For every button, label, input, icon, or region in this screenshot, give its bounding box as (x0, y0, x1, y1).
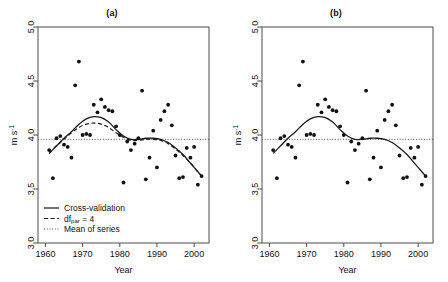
data-point (192, 145, 196, 149)
data-point (196, 183, 200, 187)
data-point (271, 148, 275, 152)
y-axis-label: m s-1 (231, 124, 243, 145)
data-point (84, 132, 88, 136)
data-point (372, 156, 376, 160)
cross-validation-curve (273, 117, 425, 176)
data-point (110, 109, 114, 113)
data-point (405, 175, 409, 179)
x-axis-tick-label: 1990 (147, 249, 167, 259)
data-point (92, 103, 96, 107)
data-point (77, 60, 81, 64)
data-point (275, 176, 279, 180)
plot-area: 3.03.54.04.55.019601970198019902000Yearm… (224, 0, 448, 282)
svg-text:m s-1: m s-1 (231, 124, 243, 145)
cross-validation-curve (49, 117, 201, 176)
data-point (413, 156, 417, 160)
data-point (305, 133, 309, 137)
x-axis-tick-label: 1960 (35, 249, 55, 259)
data-point (390, 103, 394, 107)
data-point (88, 133, 92, 137)
data-point (342, 133, 346, 137)
data-point (114, 124, 118, 128)
data-point (331, 108, 335, 112)
legend: Cross-validationdfpar = 4Mean of series (44, 203, 125, 234)
x-axis-tick-label: 1990 (371, 249, 391, 259)
x-axis-tick-label: 1980 (334, 249, 354, 259)
data-point (122, 181, 126, 185)
data-point (416, 145, 420, 149)
y-axis-tick-label: 3.0 (26, 237, 36, 250)
data-point (177, 176, 181, 180)
data-point (327, 105, 331, 109)
data-point (297, 83, 301, 87)
data-point (301, 60, 305, 64)
data-point (386, 109, 390, 113)
x-axis-label: Year (338, 265, 356, 275)
data-point (66, 145, 70, 149)
data-point (55, 136, 59, 140)
data-point (312, 133, 316, 137)
data-point (107, 108, 111, 112)
data-point (129, 148, 133, 152)
data-point (364, 89, 368, 93)
data-point (162, 109, 166, 113)
data-point (96, 110, 100, 114)
data-point (401, 176, 405, 180)
data-point (155, 166, 159, 170)
data-point (144, 177, 148, 181)
legend-label: Cross-validation (64, 203, 125, 213)
data-point (200, 174, 204, 178)
y-axis-tick-label: 3.5 (26, 183, 36, 196)
data-point (51, 176, 55, 180)
data-point (353, 148, 357, 152)
data-point (166, 103, 170, 107)
y-axis-tick-label: 5.0 (26, 21, 36, 34)
data-point (133, 142, 137, 146)
x-axis-tick-label: 1960 (259, 249, 279, 259)
data-point (81, 133, 85, 137)
panel-b: (b)3.03.54.04.55.019601970198019902000Ye… (224, 0, 448, 282)
data-point (70, 156, 74, 160)
data-point (140, 89, 144, 93)
data-point (357, 142, 361, 146)
y-axis-tick-label: 4.5 (250, 75, 260, 88)
y-axis-tick-label: 3.0 (250, 237, 260, 250)
data-point (346, 181, 350, 185)
y-axis-tick-label: 4.5 (26, 75, 36, 88)
data-point (189, 156, 193, 160)
data-point (375, 129, 379, 133)
data-point (62, 143, 66, 147)
data-point (282, 134, 286, 138)
data-point (181, 175, 185, 179)
data-point (323, 97, 327, 101)
data-point (279, 136, 283, 140)
data-point (294, 156, 298, 160)
data-point (73, 83, 77, 87)
data-point (424, 174, 428, 178)
data-point (148, 156, 152, 160)
data-point (420, 183, 424, 187)
x-axis-tick-label: 1980 (110, 249, 130, 259)
data-point (99, 97, 103, 101)
data-point (125, 140, 129, 144)
plot-frame (262, 27, 433, 243)
data-point (368, 177, 372, 181)
data-point (174, 154, 178, 158)
panel-a: (a)3.03.54.04.55.019601970198019902000Ye… (0, 0, 224, 282)
data-point (170, 123, 174, 127)
data-point (151, 129, 155, 133)
svg-text:m s-1: m s-1 (7, 124, 19, 145)
data-point (159, 118, 163, 122)
data-point (286, 143, 290, 147)
y-axis-tick-label: 3.5 (250, 183, 260, 196)
legend-label: dfpar = 4 (64, 214, 94, 224)
y-axis-tick-label: 4.0 (250, 129, 260, 142)
data-point (185, 146, 189, 150)
y-axis-tick-label: 5.0 (250, 21, 260, 34)
data-point (47, 148, 51, 152)
data-point (334, 109, 338, 113)
x-axis-label: Year (114, 265, 132, 275)
data-point (320, 110, 324, 114)
data-point (349, 140, 353, 144)
data-point (394, 123, 398, 127)
